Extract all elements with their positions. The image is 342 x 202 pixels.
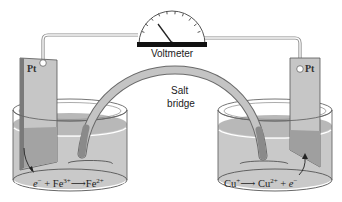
left-electrode-pt: Pt (20, 58, 57, 173)
voltmeter-label: Voltmeter (151, 48, 194, 59)
left-electrode-label: Pt (27, 63, 37, 74)
galvanic-cell-diagram: Voltmeter Pt e− + Fe3+⟶Fe2+ (0, 0, 342, 202)
salt-bridge-label: Salt bridge (167, 85, 195, 109)
voltmeter: Voltmeter (137, 11, 207, 59)
voltmeter-base (137, 42, 207, 47)
right-electrode-label: Pt (305, 63, 315, 74)
right-reaction: Cu+⟶ Cu2+ + e− (224, 177, 297, 189)
wire-right (204, 38, 300, 68)
